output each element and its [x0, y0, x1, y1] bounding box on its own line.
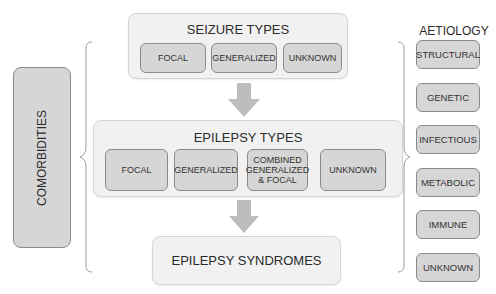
aetiology-title: AETIOLOGY: [414, 24, 494, 38]
epilepsy-syndromes-panel: EPILEPSY SYNDROMES: [152, 236, 341, 285]
left-brace: [78, 40, 94, 274]
seizure-type-focal: FOCAL: [140, 43, 206, 73]
seizure-type-generalized: GENERALIZED: [211, 43, 277, 73]
down-arrow-icon: [226, 83, 262, 119]
aetiology-unknown: UNKNOWN: [416, 253, 480, 282]
epilepsy-type-generalized: GENERALIZED: [174, 149, 238, 191]
aetiology-metabolic: METABOLIC: [416, 168, 480, 197]
right-brace: [396, 40, 412, 274]
seizure-types-title: SEIZURE TYPES: [129, 22, 347, 37]
aetiology-infectious: INFECTIOUS: [416, 125, 480, 154]
aetiology-structural: STRUCTURAL: [416, 40, 480, 69]
epilepsy-syndromes-title: EPILEPSY SYNDROMES: [171, 253, 321, 268]
epilepsy-types-title: EPILEPSY TYPES: [94, 130, 402, 145]
combined-line-2: GENERALIZED: [246, 165, 310, 175]
down-arrow-icon: [227, 200, 261, 234]
comorbidities-label: COMORBIDITIES: [37, 109, 47, 205]
epilepsy-type-combined: COMBINED GENERALIZED & FOCAL: [247, 149, 308, 191]
combined-line-1: COMBINED: [253, 155, 302, 165]
comorbidities-box: COMORBIDITIES: [13, 67, 71, 248]
aetiology-immune: IMMUNE: [416, 210, 480, 239]
epilepsy-types-panel: EPILEPSY TYPES FOCAL GENERALIZED COMBINE…: [93, 120, 403, 197]
epilepsy-type-focal: FOCAL: [105, 149, 168, 191]
epilepsy-type-unknown: UNKNOWN: [320, 149, 386, 191]
aetiology-genetic: GENETIC: [416, 83, 480, 112]
seizure-types-panel: SEIZURE TYPES FOCAL GENERALIZED UNKNOWN: [128, 13, 348, 79]
seizure-type-unknown: UNKNOWN: [283, 43, 342, 73]
combined-line-3: & FOCAL: [258, 175, 297, 185]
